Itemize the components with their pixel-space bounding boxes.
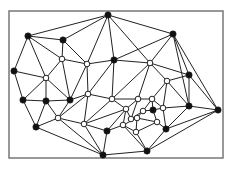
graph-diagram	[0, 0, 232, 171]
graph-edge	[108, 15, 150, 63]
white-node	[55, 115, 61, 121]
graph-edge	[167, 81, 189, 106]
graph-edge	[23, 100, 46, 101]
graph-edge	[88, 94, 112, 99]
graph-edge	[108, 15, 173, 34]
graph-edge	[147, 110, 218, 151]
white-node	[109, 96, 115, 102]
graph-edge	[87, 15, 108, 64]
graph-edge	[46, 59, 62, 78]
white-node	[84, 61, 90, 67]
graph-edge	[14, 71, 23, 100]
white-node	[133, 129, 139, 135]
graph-edge	[166, 110, 218, 129]
graph-edge	[150, 34, 173, 63]
graph-edge	[58, 94, 88, 118]
black-node	[100, 152, 106, 158]
graph-edge	[14, 36, 28, 71]
graph-edge	[36, 127, 103, 155]
graph-edge	[166, 106, 189, 129]
graph-edge	[46, 100, 70, 101]
graph-edge	[108, 15, 114, 60]
black-node	[111, 57, 117, 63]
black-node	[144, 148, 150, 154]
graph-edge	[23, 78, 46, 100]
white-node	[134, 115, 140, 121]
black-node	[105, 12, 111, 18]
graph-edge	[84, 99, 112, 124]
white-node	[120, 122, 126, 128]
graph-edge	[114, 60, 150, 63]
white-node	[160, 105, 166, 111]
graph-nodes	[11, 12, 221, 158]
white-node	[149, 96, 155, 102]
graph-edge	[103, 151, 147, 155]
black-node	[67, 97, 73, 103]
black-node	[11, 68, 17, 74]
graph-edge	[87, 60, 114, 64]
white-node	[135, 96, 141, 102]
white-node	[43, 75, 49, 81]
graph-edge	[136, 122, 157, 132]
graph-edge	[70, 64, 87, 100]
graph-edges	[14, 15, 218, 155]
graph-edge	[88, 60, 114, 94]
graph-edge	[147, 129, 166, 151]
white-node	[59, 56, 65, 62]
graph-edge	[28, 15, 108, 36]
black-node	[186, 72, 192, 78]
graph-edge	[63, 15, 108, 40]
white-node	[128, 116, 134, 122]
graph-edge	[112, 60, 114, 99]
black-node	[186, 103, 192, 109]
graph-edge	[189, 75, 218, 110]
graph-edge	[87, 64, 88, 94]
white-node	[123, 106, 129, 112]
white-node	[85, 91, 91, 97]
black-node	[33, 124, 39, 130]
black-node	[43, 98, 49, 104]
white-node	[140, 108, 146, 114]
black-node	[170, 31, 176, 37]
graph-edge	[189, 106, 218, 110]
black-node	[20, 97, 26, 103]
graph-edge	[23, 100, 36, 127]
black-node	[163, 126, 169, 132]
black-node	[60, 37, 66, 43]
graph-edge	[103, 131, 107, 155]
graph-edge	[163, 106, 189, 108]
black-node	[150, 107, 156, 113]
white-node	[154, 119, 160, 125]
graph-edge	[84, 94, 88, 124]
white-node	[81, 121, 87, 127]
white-node	[147, 60, 153, 66]
graph-edge	[14, 71, 46, 78]
white-node	[164, 78, 170, 84]
black-node	[25, 33, 31, 39]
black-node	[215, 107, 221, 113]
black-node	[104, 128, 110, 134]
